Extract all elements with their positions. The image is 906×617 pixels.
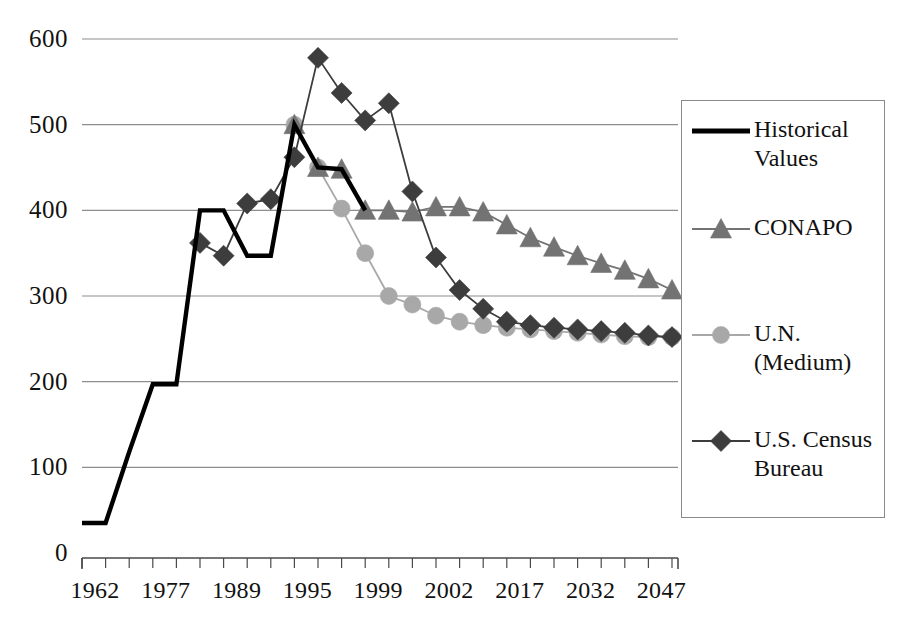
series-line (82, 125, 365, 523)
data-point-marker (713, 327, 730, 344)
y-axis-tick-label-0: 0 (0, 540, 68, 565)
data-point-marker (404, 296, 421, 313)
legend-item-historical-values[interactable]: Historical Values (682, 115, 886, 173)
legend-label: U.S. Census Bureau (752, 425, 872, 483)
y-axis-tick-label-300: 300 (0, 283, 68, 308)
legend-item-us-census-bureau[interactable]: U.S. Census Bureau (682, 425, 886, 483)
y-axis-tick-label-600: 600 (0, 26, 68, 51)
data-series-layer (82, 47, 683, 523)
data-point-marker (426, 247, 447, 268)
legend-label: U.N. (Medium) (752, 319, 851, 377)
data-point-marker (402, 181, 423, 202)
series-historical-values (82, 125, 365, 523)
y-axis-tick-label-400: 400 (0, 197, 68, 222)
data-point-marker (333, 200, 350, 217)
data-point-marker (662, 327, 683, 348)
data-point-marker (357, 245, 374, 262)
data-point-marker (449, 280, 470, 301)
legend-key-swatch (690, 215, 752, 243)
legend-key-swatch (690, 321, 752, 349)
data-point-marker (428, 307, 445, 324)
legend-item-un-medium[interactable]: U.N. (Medium) (682, 319, 886, 377)
data-point-marker (308, 47, 329, 68)
data-point-marker (591, 253, 612, 273)
data-point-marker (638, 325, 659, 346)
data-point-marker (638, 268, 659, 288)
data-point-marker (496, 214, 517, 234)
legend-label: CONAPO (752, 213, 853, 242)
legend-item-conapo[interactable]: CONAPO (682, 213, 886, 243)
y-axis-tick-label-500: 500 (0, 112, 68, 137)
x-axis (82, 558, 678, 569)
data-point-marker (520, 227, 541, 247)
legend-label: Historical Values (752, 115, 849, 173)
population-projection-chart: 0100200300400500600 19621977198919951999… (0, 0, 906, 617)
data-point-marker (662, 280, 683, 300)
data-point-marker (380, 288, 397, 305)
data-point-marker (711, 431, 732, 452)
data-point-marker (614, 260, 635, 280)
y-axis-tick-label-100: 100 (0, 454, 68, 479)
data-point-marker (544, 237, 565, 257)
data-point-marker (213, 245, 234, 266)
legend-key-swatch (690, 117, 752, 145)
chart-legend: Historical ValuesCONAPOU.N. (Medium)U.S.… (681, 100, 885, 518)
data-point-marker (473, 298, 494, 319)
data-point-marker (451, 313, 468, 330)
x-axis-tick-label-2047: 2047 (616, 577, 706, 603)
data-point-marker (378, 93, 399, 114)
y-axis-tick-label-200: 200 (0, 369, 68, 394)
legend-key-swatch (690, 427, 752, 455)
data-point-marker (567, 245, 588, 265)
